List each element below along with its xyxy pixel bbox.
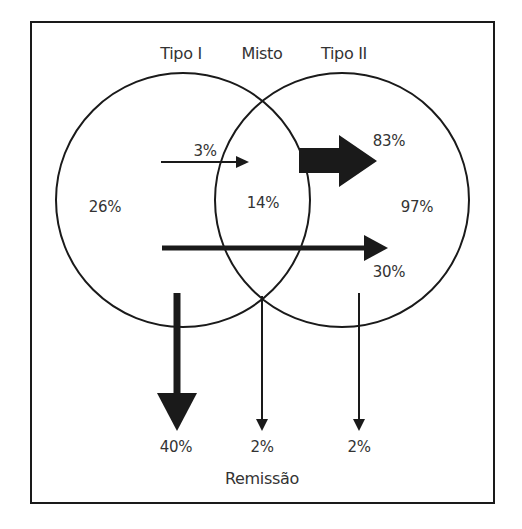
remission-footer: Remissão	[225, 469, 299, 488]
arrow-tipo2-remission-icon	[353, 293, 365, 431]
region-tipo2-value: 97%	[401, 198, 433, 216]
tipo1-header: Tipo I	[160, 44, 202, 63]
arrow-misto-remission-icon	[256, 296, 268, 431]
tipo2-header: Tipo II	[321, 44, 367, 63]
remission-misto-label: 2%	[250, 438, 273, 456]
flow-tipo1-to-misto-label: 3%	[193, 142, 216, 160]
flow-tipo1-to-tipo2-label: 30%	[373, 263, 405, 281]
arrow-tipo1-to-tipo2-icon	[162, 235, 388, 261]
flow-misto-to-tipo2-label: 83%	[373, 132, 405, 150]
region-tipo1-value: 26%	[89, 198, 121, 216]
remission-tipo1-label: 40%	[160, 438, 192, 456]
region-overlap-value: 14%	[247, 194, 279, 212]
arrow-tipo1-remission-icon	[157, 293, 197, 431]
misto-header: Misto	[241, 44, 282, 63]
arrow-misto-to-tipo2-icon	[299, 135, 377, 187]
remission-tipo2-label: 2%	[347, 438, 370, 456]
frame-border	[31, 22, 494, 503]
